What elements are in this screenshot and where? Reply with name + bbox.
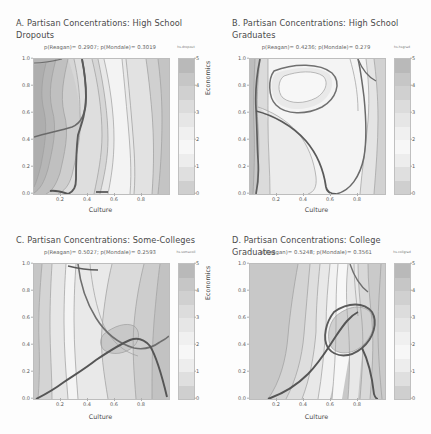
panel-b-xtick: 0.4 bbox=[299, 196, 307, 202]
panel-c-ytick: 0.0 bbox=[22, 395, 30, 401]
panel-d-cbar-tick: 4 bbox=[412, 287, 415, 293]
panel-b-colorbar-title: hs.hsgrad bbox=[382, 45, 422, 49]
panel-a-colorbar-title: hs.dropout bbox=[166, 45, 206, 49]
panel-b-ytick: 1.0 bbox=[238, 55, 246, 61]
panel-d-cbar-tick: 0 bbox=[412, 395, 415, 401]
panel-c-cbar-tick: 0 bbox=[196, 395, 199, 401]
panel-c-ytick: 1.0 bbox=[22, 260, 30, 266]
panel-a-xtick: 0.4 bbox=[83, 196, 91, 202]
panel-b-cbar-tick: 4 bbox=[412, 82, 415, 88]
panel-d-cbar-tick: 5 bbox=[412, 260, 415, 266]
panel-c-xtick: 0.2 bbox=[56, 401, 64, 407]
panel-a-xtick: 0.8 bbox=[137, 196, 145, 202]
panel-a-cbar-tick: 2 bbox=[196, 136, 199, 142]
panel-b-cbar-tick: 3 bbox=[412, 109, 415, 115]
panel-a-cbar-tick: 0 bbox=[196, 190, 199, 196]
panel-b-contour-svg bbox=[250, 59, 385, 194]
panel-c: C. Partisan Concentrations: Some-College… bbox=[0, 217, 215, 434]
panel-c-xtick: 0.8 bbox=[137, 401, 145, 407]
panel-b-xtick: 0.6 bbox=[326, 196, 334, 202]
panel-b-plot-area bbox=[249, 58, 386, 195]
panel-a-ytick: 1.0 bbox=[22, 55, 30, 61]
panel-d-xtick: 0.2 bbox=[272, 401, 280, 407]
panel-b-ylabel: Economics bbox=[204, 61, 212, 95]
panel-d-colorbar-title: hs.collgrad bbox=[382, 250, 422, 254]
panel-c-plot-area bbox=[33, 263, 170, 400]
panel-b-xlabel: Culture bbox=[249, 206, 384, 214]
panel-b-cbar-tick: 5 bbox=[412, 55, 415, 61]
panel-d-ytick: 1.0 bbox=[238, 260, 246, 266]
panel-a-title: A. Partisan Concentrations: High School … bbox=[16, 18, 208, 41]
panel-d-xtick: 0.8 bbox=[353, 401, 361, 407]
panel-a: A. Partisan Concentrations: High School … bbox=[0, 0, 215, 217]
panel-d-ytick: 0.8 bbox=[238, 287, 246, 293]
panel-c-ytick: 0.8 bbox=[22, 287, 30, 293]
panel-b-colorbar bbox=[394, 58, 411, 195]
panel-c-cbar-tick: 5 bbox=[196, 260, 199, 266]
panel-b-cbar-tick: 1 bbox=[412, 163, 415, 169]
panel-c-contour-svg bbox=[34, 264, 169, 399]
panel-c-ytick: 0.2 bbox=[22, 368, 30, 374]
panel-d-ytick: 0.0 bbox=[238, 395, 246, 401]
panel-b-ytick: 0.6 bbox=[238, 109, 246, 115]
panel-d-plot-area bbox=[249, 263, 386, 400]
panel-d-cbar-tick: 2 bbox=[412, 341, 415, 347]
panel-c-title: C. Partisan Concentrations: Some-College… bbox=[16, 235, 208, 247]
panel-d-ylabel: Economics bbox=[204, 266, 212, 300]
panel-b-xtick: 0.8 bbox=[353, 196, 361, 202]
panel-a-cbar-tick: 4 bbox=[196, 82, 199, 88]
panel-d-subtitle: p(Reagan)= 0.5248; p(Mondale)= 0.3561 bbox=[246, 249, 386, 255]
panel-a-colorbar bbox=[178, 58, 195, 195]
panel-b-subtitle: p(Reagan)= 0.4236; p(Mondale)= 0.279 bbox=[246, 44, 386, 50]
panel-d-xtick: 0.6 bbox=[326, 401, 334, 407]
panel-b-title: B. Partisan Concentrations: High School … bbox=[232, 18, 424, 41]
figure-grid: A. Partisan Concentrations: High School … bbox=[0, 0, 431, 434]
panel-c-xtick: 0.6 bbox=[110, 401, 118, 407]
panel-a-subtitle: p(Reagan)= 0.2907; p(Mondale)= 0.3019 bbox=[30, 44, 170, 50]
panel-b-cbar-tick: 0 bbox=[412, 190, 415, 196]
panel-c-ytick: 0.6 bbox=[22, 314, 30, 320]
panel-d-ytick: 0.4 bbox=[238, 341, 246, 347]
panel-b-ytick: 0.2 bbox=[238, 163, 246, 169]
panel-c-colorbar-title: hs.somecoll bbox=[166, 250, 206, 254]
panel-b-cbar-tick: 2 bbox=[412, 136, 415, 142]
panel-b: B. Partisan Concentrations: High School … bbox=[216, 0, 431, 217]
panel-a-ytick: 0.6 bbox=[22, 109, 30, 115]
panel-a-cbar-tick: 5 bbox=[196, 55, 199, 61]
panel-a-cbar-tick: 3 bbox=[196, 109, 199, 115]
panel-d-colorbar bbox=[394, 263, 411, 400]
panel-d-xtick: 0.4 bbox=[299, 401, 307, 407]
panel-c-cbar-tick: 3 bbox=[196, 314, 199, 320]
panel-a-plot-area bbox=[33, 58, 170, 195]
panel-c-colorbar bbox=[178, 263, 195, 400]
panel-d-ytick: 0.2 bbox=[238, 368, 246, 374]
panel-d-ytick: 0.6 bbox=[238, 314, 246, 320]
panel-d-xlabel: Culture bbox=[249, 413, 384, 421]
panel-b-ytick: 0.8 bbox=[238, 82, 246, 88]
panel-c-xlabel: Culture bbox=[33, 413, 168, 421]
panel-d: D. Partisan Concentrations: College Grad… bbox=[216, 217, 431, 434]
panel-b-ytick: 0.4 bbox=[238, 136, 246, 142]
panel-c-xtick: 0.4 bbox=[83, 401, 91, 407]
panel-c-cbar-tick: 1 bbox=[196, 368, 199, 374]
panel-a-xlabel: Culture bbox=[33, 206, 168, 214]
panel-a-ytick: 0.4 bbox=[22, 136, 30, 142]
panel-a-ytick: 0.2 bbox=[22, 163, 30, 169]
panel-a-ytick: 0.8 bbox=[22, 82, 30, 88]
panel-c-subtitle: p(Reagan)= 0.5027; p(Mondale)= 0.2593 bbox=[30, 249, 170, 255]
panel-c-cbar-tick: 4 bbox=[196, 287, 199, 293]
panel-a-contour-svg bbox=[34, 59, 169, 194]
panel-a-cbar-tick: 1 bbox=[196, 163, 199, 169]
panel-a-ytick: 0.0 bbox=[22, 190, 30, 196]
panel-d-cbar-tick: 1 bbox=[412, 368, 415, 374]
panel-c-ytick: 0.4 bbox=[22, 341, 30, 347]
panel-d-cbar-tick: 3 bbox=[412, 314, 415, 320]
panel-a-xtick: 0.2 bbox=[56, 196, 64, 202]
panel-b-xtick: 0.2 bbox=[272, 196, 280, 202]
panel-a-xtick: 0.6 bbox=[110, 196, 118, 202]
panel-b-ytick: 0.0 bbox=[238, 190, 246, 196]
panel-d-contour-svg bbox=[250, 264, 385, 399]
panel-c-cbar-tick: 2 bbox=[196, 341, 199, 347]
